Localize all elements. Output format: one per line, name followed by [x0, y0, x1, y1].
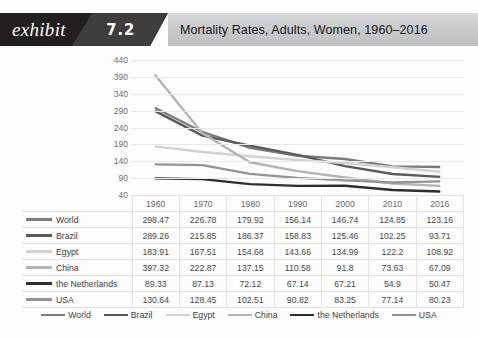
legend-swatch-icon	[290, 314, 314, 316]
gridline	[131, 128, 464, 129]
column-header: 1980	[227, 196, 274, 212]
table-cell: 108.92	[416, 244, 463, 260]
table-cell: 298.47	[132, 212, 179, 228]
table-body: World298.47226.78179.92156.14146.74124.8…	[22, 212, 464, 308]
row-header: China	[22, 260, 132, 276]
gridline	[131, 111, 464, 112]
row-header: World	[22, 212, 132, 228]
table-cell: 167.51	[179, 244, 226, 260]
row-header: Brazil	[22, 228, 132, 244]
table-row: USA130.64128.45102.5190.8283.2577.1480.2…	[22, 292, 464, 308]
series-swatch-icon	[26, 282, 52, 284]
table-cell: 130.64	[132, 292, 179, 308]
table-cell: 125.46	[321, 228, 368, 244]
table-cell: 80.23	[416, 292, 463, 308]
table-cell: 123.16	[416, 212, 463, 228]
table-cell: 122.2	[369, 244, 416, 260]
legend-label: Egypt	[193, 310, 215, 320]
table-cell: 89.33	[132, 276, 179, 292]
table-cell: 87.13	[179, 276, 226, 292]
y-axis-tick: 440	[114, 56, 128, 65]
series-label: USA	[56, 295, 74, 305]
legend-label: World	[68, 310, 91, 320]
gridline	[131, 178, 464, 179]
page-title: Mortality Rates, Adults, Women, 1960–201…	[168, 23, 428, 37]
table-cell: 143.66	[274, 244, 321, 260]
table-header-row: 1960197019801990200020102016	[22, 196, 464, 212]
series-label: Egypt	[56, 247, 78, 257]
column-header: 1960	[132, 196, 179, 212]
table-cell: 397.32	[132, 260, 179, 276]
series-label: China	[56, 263, 79, 273]
series-label: the Netherlands	[56, 279, 117, 289]
legend-swatch-icon	[392, 314, 416, 316]
gridline	[131, 60, 464, 61]
gridline	[131, 161, 464, 162]
legend-label: Brazil	[131, 310, 153, 320]
column-header: 1990	[274, 196, 321, 212]
row-header: USA	[22, 292, 132, 308]
legend-item: China	[228, 310, 278, 320]
table-cell: 110.58	[274, 260, 321, 276]
table-cell: 289.26	[132, 228, 179, 244]
y-axis-tick: 90	[119, 174, 128, 183]
y-axis-tick: 190	[114, 140, 128, 149]
legend-item: World	[41, 310, 91, 320]
table-cell: 146.74	[321, 212, 368, 228]
data-table: 1960197019801990200020102016 World298.47…	[22, 195, 464, 308]
table-cell: 137.15	[227, 260, 274, 276]
gridline	[131, 144, 464, 145]
table-cell: 128.45	[179, 292, 226, 308]
table-cell: 67.09	[416, 260, 463, 276]
table-cell: 156.14	[274, 212, 321, 228]
table-cell: 102.25	[369, 228, 416, 244]
table-cell: 77.14	[369, 292, 416, 308]
table-cell: 183.91	[132, 244, 179, 260]
table-cell: 186.37	[227, 228, 274, 244]
data-table-wrapper: 1960197019801990200020102016 World298.47…	[22, 195, 464, 308]
table-cell: 54.9	[369, 276, 416, 292]
column-header: 1970	[179, 196, 226, 212]
table-cell: 73.63	[369, 260, 416, 276]
table-cell: 154.68	[227, 244, 274, 260]
legend-swatch-icon	[166, 314, 190, 316]
table-row: Egypt183.91167.51154.68143.66134.99122.2…	[22, 244, 464, 260]
table-cell: 179.92	[227, 212, 274, 228]
table-cell: 215.85	[179, 228, 226, 244]
row-header: Egypt	[22, 244, 132, 260]
legend-label: China	[255, 310, 278, 320]
legend-label: USA	[419, 310, 437, 320]
legend-item: USA	[392, 310, 437, 320]
table-cell: 50.47	[416, 276, 463, 292]
y-axis-tick: 140	[114, 157, 128, 166]
series-swatch-icon	[26, 234, 52, 236]
column-header: 2016	[416, 196, 463, 212]
series-line	[155, 108, 440, 167]
table-cell: 67.21	[321, 276, 368, 292]
table-cell: 67.14	[274, 276, 321, 292]
legend-item: the Netherlands	[290, 310, 378, 320]
legend-swatch-icon	[104, 314, 128, 316]
exhibit-label: exhibit	[0, 20, 66, 39]
table-cell: 226.78	[179, 212, 226, 228]
table-row: the Netherlands89.3387.1372.1267.1467.21…	[22, 276, 464, 292]
exhibit-title-band: Mortality Rates, Adults, Women, 1960–201…	[168, 13, 478, 46]
table-cell: 93.71	[416, 228, 463, 244]
plot-area	[131, 60, 464, 195]
table-cell: 102.51	[227, 292, 274, 308]
line-chart: 4403903402902401901409040	[0, 60, 478, 195]
table-cell: 72.12	[227, 276, 274, 292]
legend-item: Egypt	[166, 310, 215, 320]
column-header: 2000	[321, 196, 368, 212]
series-label: World	[56, 215, 79, 225]
table-cell: 134.99	[321, 244, 368, 260]
table-cell: 158.83	[274, 228, 321, 244]
column-header: 2010	[369, 196, 416, 212]
table-corner-cell	[22, 196, 132, 212]
legend-swatch-icon	[41, 314, 65, 316]
table-row: Brazil289.26215.85186.37158.83125.46102.…	[22, 228, 464, 244]
legend-item: Brazil	[104, 310, 153, 320]
y-axis-tick: 290	[114, 106, 128, 115]
series-swatch-icon	[26, 298, 52, 300]
y-axis-tick: 240	[114, 123, 128, 132]
